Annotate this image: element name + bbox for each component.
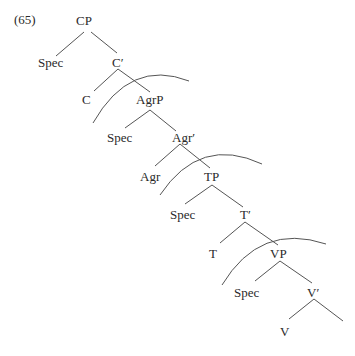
node-spec-tp: Spec [170, 207, 196, 222]
node-v-bar: V′ [307, 285, 319, 300]
node-t-bar: T′ [240, 207, 251, 222]
node-v: V [280, 324, 290, 339]
tree-edges [56, 32, 343, 321]
node-c: C [82, 92, 91, 107]
node-agrp: AgrP [136, 92, 163, 107]
node-spec-vp: Spec [234, 285, 260, 300]
node-tp: TP [204, 169, 219, 184]
node-vp: VP [270, 246, 287, 261]
node-spec-cp: Spec [38, 55, 64, 70]
node-cp: CP [76, 13, 92, 28]
node-agr-bar: Agr′ [172, 130, 195, 145]
syntax-tree-diagram: (65) CP Spec C′ C AgrP Spec Agr′ Agr TP … [0, 0, 355, 356]
node-t: T [209, 246, 217, 261]
node-c-bar: C′ [112, 55, 124, 70]
node-spec-agrp: Spec [107, 130, 133, 145]
example-number: (65) [14, 12, 36, 27]
node-agr: Agr [140, 169, 161, 184]
